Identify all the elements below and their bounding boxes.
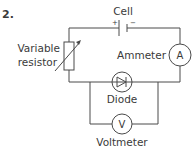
cell-positive-sign: + (112, 19, 118, 27)
voltmeter-label: Voltmeter (96, 136, 148, 148)
diode-label: Diode (107, 93, 138, 105)
voltmeter-symbol-letter: V (119, 119, 126, 130)
ammeter-symbol-letter: A (177, 50, 184, 61)
question-number: 2. (2, 8, 14, 21)
resistor-body (64, 42, 74, 70)
diode-symbol (112, 72, 132, 92)
ammeter-label: Ammeter (117, 49, 167, 61)
cell-label: Cell (113, 5, 133, 17)
circuit-wires (69, 28, 180, 124)
ammeter-symbol: A (169, 44, 191, 66)
circuit-diagram: 2. + − Cell Variable resistor A Ammeter (0, 0, 196, 152)
variable-resistor-label-line2: resistor (18, 56, 58, 68)
voltmeter-symbol: V (112, 114, 132, 134)
variable-resistor-label-line1: Variable (17, 42, 60, 54)
variable-arrow-head-icon (76, 40, 81, 45)
cell-negative-sign: − (130, 19, 136, 27)
